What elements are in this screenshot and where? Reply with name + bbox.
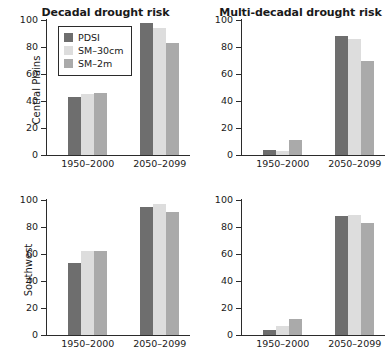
bar (166, 212, 179, 335)
y-axis-tick-label: 0 (205, 330, 233, 340)
y-axis-tick-label: 60 (205, 249, 233, 259)
bar (348, 215, 361, 335)
bar (81, 251, 94, 335)
y-axis-tick-label: 60 (10, 249, 38, 259)
panel-central-plains-multi-decadal: Multi-decadal drought risk02040608010019… (195, 0, 390, 180)
x-axis-line (241, 335, 385, 336)
x-axis-line (241, 155, 385, 156)
y-axis-tick-label: 100 (205, 195, 233, 205)
bar (140, 23, 153, 155)
plot-area (241, 20, 385, 155)
legend: PDSISM–30cmSM–2m (58, 26, 132, 76)
bar (289, 140, 302, 155)
y-axis-tick-label: 60 (10, 69, 38, 79)
y-axis-tick-label: 80 (10, 42, 38, 52)
bar (81, 94, 94, 155)
legend-item-label: SM–30cm (78, 46, 124, 56)
y-axis-tick-label: 20 (10, 303, 38, 313)
panel-title: Decadal drought risk (18, 6, 193, 19)
bar (276, 326, 289, 335)
bar (289, 319, 302, 335)
bar (166, 43, 179, 155)
legend-swatch-icon (64, 33, 73, 42)
bar (94, 93, 107, 155)
bar (263, 330, 276, 335)
legend-swatch-icon (64, 46, 73, 55)
x-axis-tick-label: 2050–2099 (320, 159, 390, 169)
bar (94, 251, 107, 335)
y-axis-tick-label: 80 (205, 42, 233, 52)
y-axis-tick (236, 335, 241, 336)
y-axis-tick-label: 0 (205, 150, 233, 160)
y-axis-tick-label: 40 (10, 96, 38, 106)
x-axis-line (46, 155, 190, 156)
bar (68, 97, 81, 155)
y-axis-tick-label: 20 (10, 123, 38, 133)
bar (276, 151, 289, 155)
panel-title: Multi-decadal drought risk (213, 6, 388, 19)
legend-item-label: SM–2m (78, 59, 112, 69)
bar (335, 36, 348, 155)
x-axis-tick-label: 1950–2000 (53, 159, 123, 169)
y-axis-tick-label: 80 (10, 222, 38, 232)
bar (140, 207, 153, 335)
y-axis-tick-label: 0 (10, 330, 38, 340)
bar (348, 39, 361, 155)
bar (263, 150, 276, 155)
x-axis-tick-label: 2050–2099 (320, 339, 390, 349)
bar (153, 204, 166, 335)
y-axis-tick-label: 100 (10, 15, 38, 25)
legend-item: SM–2m (64, 57, 124, 70)
legend-swatch-icon (64, 59, 73, 68)
y-axis-tick (41, 335, 46, 336)
y-axis-tick (236, 155, 241, 156)
x-axis-tick-label: 2050–2099 (125, 159, 195, 169)
y-axis-tick-label: 0 (10, 150, 38, 160)
y-axis-tick-label: 20 (205, 303, 233, 313)
y-axis-tick-label: 40 (205, 96, 233, 106)
y-axis-tick-label: 60 (205, 69, 233, 79)
y-axis-label: Central Plains (31, 56, 42, 125)
x-axis-tick-label: 2050–2099 (125, 339, 195, 349)
bar (153, 28, 166, 155)
x-axis-tick-label: 1950–2000 (53, 339, 123, 349)
x-axis-tick-label: 1950–2000 (248, 339, 318, 349)
legend-item: PDSI (64, 31, 124, 44)
bar (335, 216, 348, 335)
legend-item-label: PDSI (78, 33, 100, 43)
y-axis-tick (41, 155, 46, 156)
legend-item: SM–30cm (64, 44, 124, 57)
x-axis-tick-label: 1950–2000 (248, 159, 318, 169)
y-axis-tick-label: 100 (205, 15, 233, 25)
bar (68, 263, 81, 335)
panel-central-plains-decadal: Decadal drought riskCentral Plains020406… (0, 0, 195, 180)
x-axis-line (46, 335, 190, 336)
panel-southwest-decadal: Southwest0204060801001950–20002050–2099 (0, 180, 195, 360)
y-axis-tick-label: 80 (205, 222, 233, 232)
plot-area (46, 200, 190, 335)
bar (361, 61, 374, 156)
y-axis-tick-label: 100 (10, 195, 38, 205)
y-axis-tick-label: 20 (205, 123, 233, 133)
drought-risk-figure: Decadal drought riskCentral Plains020406… (0, 0, 390, 360)
y-axis-tick-label: 40 (205, 276, 233, 286)
bar (361, 223, 374, 335)
panel-southwest-multi-decadal: 0204060801001950–20002050–2099 (195, 180, 390, 360)
y-axis-tick-label: 40 (10, 276, 38, 286)
plot-area (241, 200, 385, 335)
